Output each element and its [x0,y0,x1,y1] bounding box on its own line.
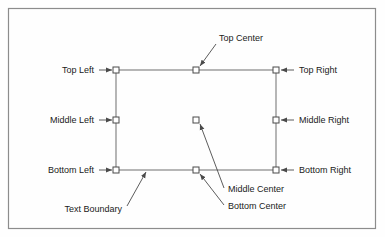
anchor-handle-bottom-right[interactable] [273,167,279,173]
anchor-handle-top-left[interactable] [113,67,119,73]
anchor-handle-middle-center[interactable] [193,117,199,123]
anchor-handle-bottom-center[interactable] [193,167,199,173]
label-middle-left: Middle Left [50,115,95,125]
label-bottom-center: Bottom Center [228,201,286,211]
leader-text-boundary [127,172,146,206]
label-top-right: Top Right [299,65,338,75]
label-middle-center: Middle Center [228,184,284,194]
diagram-canvas: Top Left Top Center Top Right Middle Lef… [0,0,385,237]
anchor-handle-middle-left[interactable] [113,117,119,123]
label-middle-right: Middle Right [299,115,350,125]
anchor-handle-bottom-left[interactable] [113,167,119,173]
anchor-handle-top-right[interactable] [273,67,279,73]
label-text-boundary: Text Boundary [64,204,122,214]
anchor-handle-middle-right[interactable] [273,117,279,123]
label-bottom-left: Bottom Left [48,165,95,175]
anchor-points-diagram: Top Left Top Center Top Right Middle Lef… [0,0,385,237]
leader-top-center [200,44,216,66]
label-top-center: Top Center [219,33,263,43]
anchor-handle-top-center[interactable] [193,67,199,73]
label-top-left: Top Left [62,65,95,75]
label-bottom-right: Bottom Right [299,165,352,175]
